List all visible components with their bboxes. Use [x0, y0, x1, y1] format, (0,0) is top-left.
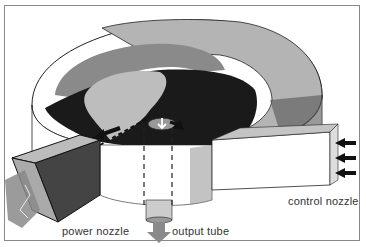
output-flow-arrow-icon: [147, 222, 171, 243]
control-flow-arrows-icon: [335, 138, 356, 178]
control-nozzle: [212, 124, 356, 190]
power-nozzle: [5, 135, 100, 228]
vortex-valve-diagram: [0, 0, 366, 247]
control-nozzle-label: control nozzle: [288, 195, 359, 207]
output-tube-label: output tube: [172, 225, 229, 237]
power-nozzle-label: power nozzle: [62, 225, 129, 237]
